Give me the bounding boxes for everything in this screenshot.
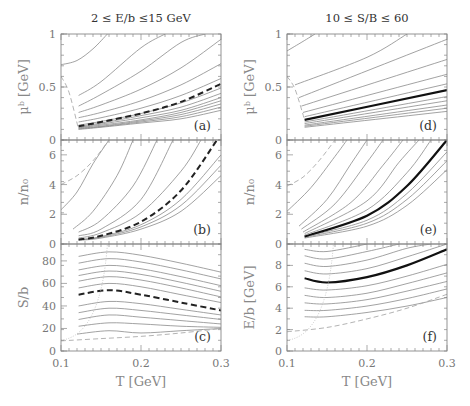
series-line bbox=[305, 249, 447, 282]
y-tick-label: 1 bbox=[275, 28, 282, 41]
panel-e: 0246n/n₀(e) bbox=[242, 140, 447, 251]
series-line bbox=[79, 301, 221, 315]
y-tick-label: 6 bbox=[275, 281, 282, 294]
panel-label: (c) bbox=[194, 329, 211, 344]
series-line bbox=[305, 289, 447, 311]
y-axis-label: n/n₀ bbox=[242, 179, 257, 205]
figure: 2 ≤ E/b ≤15 GeV 10 ≤ S/B ≤ 60 00.51μᵇ [G… bbox=[0, 0, 470, 406]
y-tick-label: 4 bbox=[49, 179, 56, 192]
panels: 00.51μᵇ [GeV](a)0246n/n₀(b)020406080S/b(… bbox=[16, 28, 456, 370]
series-line bbox=[305, 244, 367, 252]
panel-b: 0246n/n₀(b) bbox=[16, 140, 221, 251]
y-tick-label: 2 bbox=[275, 208, 282, 221]
series-line bbox=[79, 315, 221, 324]
series-line bbox=[287, 140, 335, 186]
y-tick-label: 4 bbox=[275, 179, 282, 192]
y-tick-label: 8 bbox=[275, 259, 282, 272]
curves bbox=[287, 244, 447, 340]
panel-label: (f) bbox=[423, 329, 437, 344]
panel-label: (d) bbox=[419, 118, 437, 133]
series-line bbox=[301, 59, 447, 106]
series-line bbox=[303, 74, 447, 112]
curves bbox=[61, 244, 221, 341]
series-line bbox=[305, 298, 447, 318]
y-tick-label: 1 bbox=[49, 28, 56, 41]
x-tick-label: 0.2 bbox=[358, 357, 376, 370]
x-axis-label-right: T [GeV] bbox=[342, 374, 392, 389]
panel-a: 00.51μᵇ [GeV](a) bbox=[16, 28, 221, 147]
dotted-curve bbox=[287, 244, 333, 340]
y-axis-label: S/b bbox=[16, 287, 31, 309]
x-tick-label: 0.1 bbox=[52, 357, 70, 370]
series-line bbox=[61, 76, 79, 129]
panel-label: (a) bbox=[194, 118, 211, 133]
y-tick-label: 0 bbox=[275, 134, 282, 147]
series-line bbox=[79, 252, 221, 272]
x-tick-label: 0.2 bbox=[132, 357, 150, 370]
panel-f: 02468E/b [GeV](f)0.10.20.3 bbox=[242, 244, 456, 370]
series-line bbox=[287, 76, 305, 119]
x-axis-label-left: T [GeV] bbox=[116, 374, 166, 389]
x-tick-label: 0.3 bbox=[212, 357, 230, 370]
series-line bbox=[79, 34, 165, 95]
panel-label: (b) bbox=[193, 222, 211, 237]
y-axis-label: n/n₀ bbox=[16, 179, 31, 205]
x-tick-label: 0.3 bbox=[438, 357, 456, 370]
y-tick-label: 6 bbox=[275, 149, 282, 162]
y-tick-label: 20 bbox=[42, 322, 56, 335]
y-tick-label: 0.5 bbox=[265, 81, 283, 94]
panel-c: 020406080S/b(c)0.10.20.3 bbox=[16, 244, 230, 370]
series-line bbox=[303, 140, 403, 232]
y-axis-label: μᵇ [GeV] bbox=[16, 59, 31, 114]
y-tick-label: 6 bbox=[49, 149, 56, 162]
y-tick-label: 0 bbox=[49, 238, 56, 251]
curves bbox=[61, 34, 221, 129]
y-axis-label: μᵇ [GeV] bbox=[242, 59, 257, 114]
series-line bbox=[73, 140, 133, 229]
y-tick-label: 0.5 bbox=[39, 81, 57, 94]
series-line bbox=[305, 264, 447, 290]
series-line bbox=[79, 323, 221, 328]
y-axis-label: E/b [GeV] bbox=[242, 266, 257, 330]
panel-label: (e) bbox=[420, 222, 437, 237]
y-tick-label: 0 bbox=[49, 134, 56, 147]
series-line bbox=[79, 140, 173, 236]
y-tick-label: 2 bbox=[275, 324, 282, 337]
curves bbox=[287, 34, 447, 127]
y-tick-label: 4 bbox=[275, 302, 282, 315]
y-tick-label: 2 bbox=[49, 208, 56, 221]
y-tick-label: 40 bbox=[42, 300, 56, 313]
series-line bbox=[299, 140, 367, 226]
y-tick-label: 0 bbox=[275, 238, 282, 251]
column-title-right: 10 ≤ S/B ≤ 60 bbox=[325, 11, 408, 25]
x-tick-label: 0.1 bbox=[278, 357, 296, 370]
y-tick-label: 80 bbox=[42, 255, 56, 268]
series-line bbox=[305, 140, 419, 234]
series-line bbox=[79, 265, 221, 285]
column-title-left: 2 ≤ E/b ≤15 GeV bbox=[91, 11, 191, 25]
panel-d: 00.51μᵇ [GeV](d) bbox=[242, 28, 447, 147]
y-tick-label: 60 bbox=[42, 277, 56, 290]
series-line bbox=[61, 34, 107, 65]
